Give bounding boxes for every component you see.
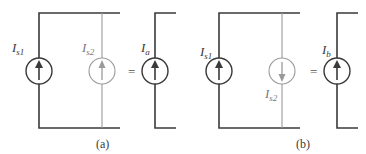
current-source-is2-a: [89, 58, 115, 84]
current-source-is2-b: [269, 58, 295, 84]
label-is1-a: Is1: [11, 40, 24, 57]
current-source-ia: [142, 58, 168, 84]
caption-b: (b): [296, 137, 310, 151]
equals-sign-a: =: [128, 64, 135, 79]
circuit-diagram: Is1 Is2 = Ia (a) Is1: [0, 0, 366, 154]
label-is1-b: Is1: [199, 44, 212, 61]
label-ia: Ia: [140, 40, 150, 57]
current-source-is1-a: [26, 58, 52, 84]
label-is2-b: Is2: [264, 86, 278, 103]
current-source-ib: [324, 58, 350, 84]
equals-sign-b: =: [310, 64, 317, 79]
label-is2-a: Is2: [81, 40, 95, 57]
panel-b: Is1 Is2 = Ib (b): [199, 13, 358, 151]
label-ib: Ib: [321, 42, 331, 59]
caption-a: (a): [96, 137, 109, 151]
panel-a: Is1 Is2 = Ia (a): [11, 13, 176, 151]
current-source-is1-b: [206, 58, 232, 84]
